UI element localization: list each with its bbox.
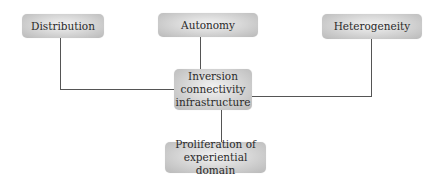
diagram-canvas: Distribution Autonomy Heterogeneity Inve… xyxy=(0,0,444,185)
node-distribution: Distribution xyxy=(22,14,104,38)
node-proliferation-line2: experiential domain xyxy=(165,151,266,177)
node-center-line2: connectivity xyxy=(181,83,246,96)
connector-distribution-down xyxy=(60,38,61,90)
node-center-line1: Inversion xyxy=(188,70,238,83)
connector-distribution-across xyxy=(60,89,175,90)
connector-heterogeneity-down xyxy=(371,39,372,97)
node-distribution-label: Distribution xyxy=(31,20,95,33)
node-center-line3: infrastructure xyxy=(176,96,251,109)
node-heterogeneity: Heterogeneity xyxy=(322,14,422,39)
node-heterogeneity-label: Heterogeneity xyxy=(334,20,411,33)
node-autonomy: Autonomy xyxy=(158,13,258,37)
connector-autonomy-down xyxy=(200,37,201,69)
connector-heterogeneity-across xyxy=(252,96,372,97)
node-autonomy-label: Autonomy xyxy=(181,19,235,32)
node-center: Inversion connectivity infrastructure xyxy=(174,69,252,110)
node-proliferation: Proliferation of experiential domain xyxy=(165,142,266,173)
node-proliferation-line1: Proliferation of xyxy=(175,138,256,151)
